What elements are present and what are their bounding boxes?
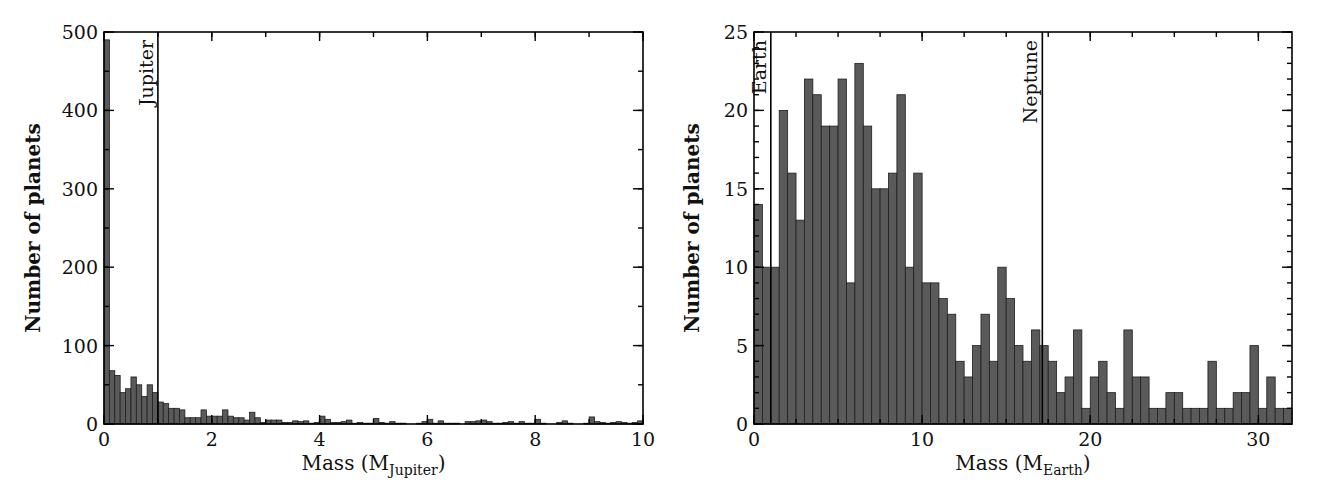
histogram-bar [1208,361,1216,424]
histogram-bar [1040,346,1048,424]
histogram-bar [1166,393,1174,424]
histogram-bar [185,418,190,424]
histogram-bar [1174,393,1182,424]
histogram-bar [897,95,905,424]
histogram-bar [320,416,325,424]
histogram-bar [233,418,238,424]
histogram-bar [1141,377,1149,424]
histogram-bar [914,173,922,424]
histogram-bar [779,110,787,424]
x-tick-label: 10 [910,428,934,450]
histogram-bar [1057,393,1065,424]
histogram-bar [931,283,939,424]
histogram-bar [1275,408,1283,424]
plot-frame [104,32,643,424]
histogram-bar [1216,408,1224,424]
right-histogram-panel: EarthNeptune01020300510152025Number of p… [659,0,1317,490]
histogram-bar [838,79,846,424]
x-axis-label: Mass (MEarth) [955,451,1090,478]
histogram-bar [212,416,217,424]
histogram-bar [1023,361,1031,424]
histogram-bar [196,418,201,424]
histogram-bar [174,408,179,424]
annotation-neptune: Neptune [1019,40,1041,123]
annotation-jupiter: Jupiter [135,39,157,108]
histogram-bar [104,40,109,424]
histogram-bar [788,173,796,424]
histogram-bar [973,346,981,424]
histogram-bar [589,417,594,424]
histogram-bar [1267,377,1275,424]
histogram-bar [1149,408,1157,424]
histogram-bar [169,408,174,424]
x-tick-label: 2 [206,428,218,450]
x-tick-label: 0 [98,428,110,450]
y-tick-label: 300 [62,178,98,200]
histogram-bar [217,416,222,424]
x-tick-label: 0 [748,428,760,450]
y-tick-label: 100 [62,335,98,357]
x-tick-label: 8 [529,428,541,450]
histogram-bar [1158,408,1166,424]
y-tick-label: 500 [62,21,98,43]
earth-mass-histogram: EarthNeptune01020300510152025Number of p… [659,0,1317,490]
histogram-bar [190,418,195,424]
axis-ticks [104,32,643,424]
jupiter-mass-histogram: Jupiter02468100100200300400500Number of … [0,0,658,490]
histogram-bar [239,418,244,424]
histogram-bar [255,418,260,424]
histogram-bar [1107,393,1115,424]
y-tick-label: 5 [736,335,748,357]
histogram-bar [126,389,131,424]
histogram-bar [115,375,120,424]
histogram-bar [998,267,1006,424]
histogram-bar [1258,408,1266,424]
histogram-bar [1073,330,1081,424]
histogram-bar [1065,377,1073,424]
histogram-bar [830,126,838,424]
histogram-bar [147,385,152,424]
histogram-bar [223,410,228,424]
histogram-bar [855,63,863,424]
histogram-bar [142,397,147,424]
histogram-bar [1191,408,1199,424]
x-tick-label: 30 [1246,428,1270,450]
histogram-bar [1242,393,1250,424]
histogram-bar [1233,393,1241,424]
histogram-bar [964,377,972,424]
histogram-bar [158,402,163,424]
histogram-bar [120,393,125,424]
histogram-bar [1082,408,1090,424]
histogram-bar [880,189,888,424]
histogram-bar [131,377,136,424]
histogram-bar [956,361,964,424]
y-tick-label: 200 [62,256,98,278]
histogram-bar [206,416,211,424]
histogram-bar [374,419,379,424]
histogram-bar [201,410,206,424]
y-tick-label: 0 [86,413,98,435]
histogram-bar [1284,408,1292,424]
histogram-bar [1200,408,1208,424]
histogram-bar [1048,361,1056,424]
y-tick-label: 15 [724,178,748,200]
y-tick-label: 20 [724,99,748,121]
histogram-bar [905,267,913,424]
histogram-bar [863,126,871,424]
histogram-bar [1225,408,1233,424]
histogram-bar [989,361,997,424]
histogram-bar [1115,408,1123,424]
x-tick-label: 10 [631,428,655,450]
histogram-bar [1099,361,1107,424]
histogram-bar [1031,330,1039,424]
histogram-bars [104,40,643,424]
histogram-bar [163,404,168,424]
histogram-bar [947,314,955,424]
histogram-bar [1015,346,1023,424]
x-tick-label: 20 [1078,428,1102,450]
x-axis-label: Mass (MJupiter) [301,451,445,478]
histogram-bar [228,416,233,424]
histogram-bar [922,283,930,424]
y-axis-label: Number of planets [680,123,704,332]
histogram-bar [109,371,114,424]
